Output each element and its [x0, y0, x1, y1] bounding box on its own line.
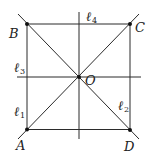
- point-a: [25, 128, 29, 132]
- point-o: [77, 75, 81, 79]
- label-b: B: [8, 26, 19, 41]
- label-o: O: [85, 73, 96, 88]
- label-l1-sub: 1: [20, 111, 25, 120]
- label-d: D: [123, 139, 135, 154]
- point-c: [128, 22, 132, 26]
- geometry-diagram: B C A D O ℓ 4 ℓ 3 ℓ 1 ℓ 2: [0, 0, 153, 159]
- label-c: C: [135, 20, 145, 35]
- point-b: [25, 22, 29, 26]
- label-l3-sub: 3: [20, 67, 25, 76]
- label-a: A: [15, 138, 25, 153]
- point-d: [128, 128, 132, 132]
- label-l4-sub: 4: [92, 16, 97, 25]
- label-l2-sub: 2: [124, 105, 129, 114]
